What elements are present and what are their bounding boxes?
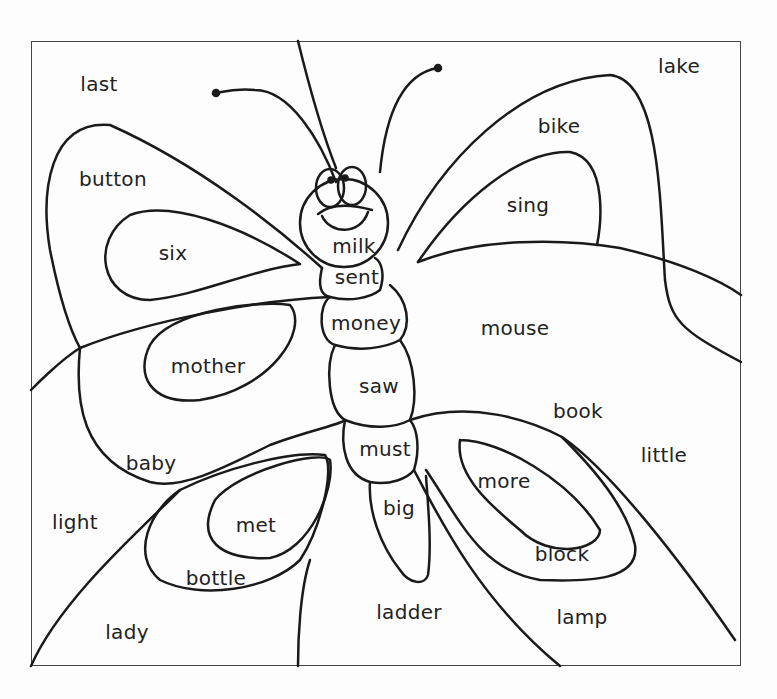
word-book: book xyxy=(553,399,603,423)
word-met: met xyxy=(236,513,277,537)
word-more: more xyxy=(477,469,530,493)
stem-line xyxy=(298,41,336,168)
antenna-right xyxy=(380,68,437,172)
word-bottle: bottle xyxy=(186,566,246,590)
body-big xyxy=(370,476,430,582)
word-six: six xyxy=(159,241,188,265)
word-bike: bike xyxy=(538,114,581,138)
word-lamp: lamp xyxy=(556,605,607,629)
word-milk: milk xyxy=(332,234,375,258)
word-sing: sing xyxy=(507,193,550,217)
met-inner xyxy=(208,457,331,558)
word-little: little xyxy=(641,443,687,467)
mother-blob xyxy=(144,304,295,401)
word-block: block xyxy=(535,542,590,566)
word-baby: baby xyxy=(126,451,177,475)
ladder-line-left xyxy=(298,560,310,666)
wing-divider-top xyxy=(418,242,741,295)
word-lady: lady xyxy=(105,620,149,644)
butterfly-illustration xyxy=(0,0,777,699)
word-saw: saw xyxy=(359,374,399,398)
word-lake: lake xyxy=(658,54,700,78)
word-money: money xyxy=(331,311,401,335)
word-must: must xyxy=(359,437,411,461)
word-light: light xyxy=(52,510,98,534)
antenna-left xyxy=(216,89,336,182)
word-mouse: mouse xyxy=(481,316,550,340)
word-mother: mother xyxy=(171,354,246,378)
wing-upper-left-outer xyxy=(47,125,322,348)
word-big: big xyxy=(383,496,415,520)
word-ladder: ladder xyxy=(376,600,442,624)
word-button: button xyxy=(79,167,147,191)
block-outer xyxy=(426,437,635,581)
word-last: last xyxy=(80,72,117,96)
word-sent: sent xyxy=(335,265,379,289)
